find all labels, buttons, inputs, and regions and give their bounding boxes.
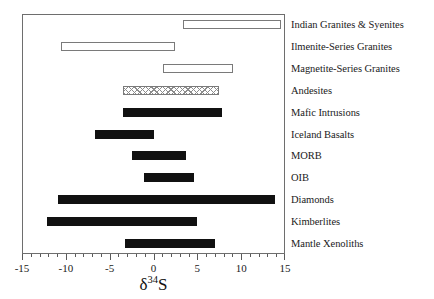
- x-tick-minor: [118, 254, 119, 257]
- x-tick-major: [22, 254, 23, 260]
- bar-range: [183, 20, 281, 29]
- x-tick-minor: [250, 254, 251, 257]
- x-tick-minor: [215, 254, 216, 257]
- x-tick-minor: [75, 254, 76, 257]
- x-tick-minor: [136, 254, 137, 257]
- bar-range: [95, 130, 155, 139]
- bar-range: [144, 173, 194, 182]
- x-tick-minor: [57, 254, 58, 257]
- axis-title-delta: δ: [140, 275, 148, 294]
- x-tick-label: -15: [15, 262, 30, 275]
- bar-range: [58, 195, 275, 204]
- x-tick-label: 0: [151, 262, 157, 275]
- x-tick-minor: [232, 254, 233, 257]
- x-tick-minor: [40, 254, 41, 257]
- x-tick-minor: [31, 254, 32, 257]
- x-tick-minor: [145, 254, 146, 257]
- x-tick-major: [241, 254, 242, 260]
- category-label: Indian Granites & Syenites: [291, 19, 404, 30]
- axis-title-superscript: 34: [148, 274, 159, 285]
- category-label: Magnetite-Series Granites: [291, 63, 400, 74]
- category-labels: Indian Granites & SyenitesIlmenite-Serie…: [291, 14, 434, 254]
- category-label: Andesites: [291, 85, 332, 96]
- bar-range: [125, 239, 215, 248]
- bar-range: [123, 86, 219, 95]
- category-label: Ilmenite-Series Granites: [291, 41, 392, 52]
- x-tick-label: 10: [236, 262, 247, 275]
- bar-range: [61, 42, 175, 51]
- bars-layer: [22, 14, 285, 254]
- bar-range: [123, 108, 222, 117]
- x-tick-label: 15: [280, 262, 291, 275]
- sulfur-isotope-range-chart: Indian Granites & SyenitesIlmenite-Serie…: [0, 0, 434, 299]
- x-tick-major: [197, 254, 198, 260]
- category-label: Mantle Xenoliths: [291, 238, 363, 249]
- x-tick-minor: [189, 254, 190, 257]
- category-label: MORB: [291, 150, 322, 161]
- x-tick-minor: [83, 254, 84, 257]
- category-label: Mafic Intrusions: [291, 107, 360, 118]
- x-tick-major: [284, 254, 285, 260]
- x-tick-major: [66, 254, 67, 260]
- x-tick-major: [110, 254, 111, 260]
- x-tick-minor: [224, 254, 225, 257]
- x-tick-minor: [267, 254, 268, 257]
- x-tick-label: -5: [105, 262, 114, 275]
- x-tick-label: -10: [58, 262, 73, 275]
- x-axis-title: δ34S: [0, 275, 307, 295]
- category-label: Iceland Basalts: [291, 129, 354, 140]
- axis-title-element: S: [158, 275, 167, 294]
- x-tick-minor: [127, 254, 128, 257]
- x-tick-minor: [92, 254, 93, 257]
- category-label: OIB: [291, 172, 309, 183]
- x-tick-minor: [162, 254, 163, 257]
- x-tick-minor: [171, 254, 172, 257]
- category-label: Kimberlites: [291, 216, 340, 227]
- x-tick-minor: [259, 254, 260, 257]
- x-tick-minor: [180, 254, 181, 257]
- x-tick-minor: [206, 254, 207, 257]
- bar-range: [163, 64, 233, 73]
- x-tick-minor: [276, 254, 277, 257]
- bar-range: [47, 217, 198, 226]
- x-tick-minor: [48, 254, 49, 257]
- x-tick-minor: [101, 254, 102, 257]
- x-tick-label: 5: [195, 262, 201, 275]
- category-label: Diamonds: [291, 194, 334, 205]
- x-tick-major: [154, 254, 155, 260]
- bar-range: [132, 151, 186, 160]
